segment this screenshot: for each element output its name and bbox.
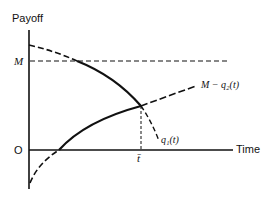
origin-label: O [14, 145, 23, 156]
mq2-curve-label: M − q₂(t) [201, 80, 239, 90]
m-label: M [14, 56, 23, 67]
y-axis-label: Payoff [12, 13, 43, 24]
mq2-curve-solid [59, 106, 141, 150]
q1-curve-solid [77, 61, 141, 106]
q1-curve-dashed-end [141, 106, 159, 141]
mq2-curve-dashed-end [141, 86, 196, 106]
t-bar-label: t̄ [137, 153, 140, 164]
q1-curve-label: q₁(t) [161, 135, 179, 145]
mq2-curve-dashed-start [30, 150, 59, 183]
diagram-graphics [0, 0, 270, 203]
x-axis-label: Time [236, 144, 260, 155]
q1-curve-dashed-start [29, 45, 77, 61]
payoff-diagram: Payoff Time O M t̄ q₁(t) M − q₂(t) [0, 0, 270, 203]
